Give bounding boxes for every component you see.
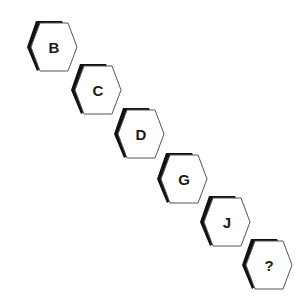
hexagon-item-unknown: ? [239, 238, 293, 292]
question-mark-label: ? [242, 238, 296, 292]
sequence-diagram: B C D G J ? [0, 0, 307, 306]
